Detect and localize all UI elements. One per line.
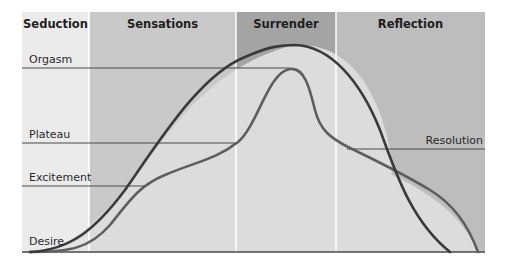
phase-header-seduction: Seduction: [23, 17, 88, 31]
stage-label-desire: Desire: [29, 235, 64, 248]
phase-header-surrender: Surrender: [253, 17, 319, 31]
phase-header-sensations: Sensations: [127, 17, 198, 31]
stage-label-orgasm: Orgasm: [29, 53, 72, 66]
stage-label-resolution: Resolution: [426, 134, 484, 147]
stage-label-excitement: Excitement: [29, 171, 92, 184]
arousal-phases-diagram: Seduction Sensations Surrender Reflectio…: [0, 0, 508, 264]
phase-header-reflection: Reflection: [378, 17, 443, 31]
stage-label-plateau: Plateau: [29, 128, 70, 141]
